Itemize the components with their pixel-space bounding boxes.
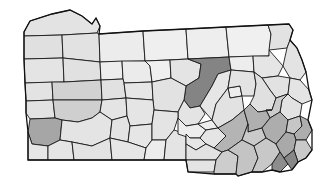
county-warren[interactable] bbox=[62, 33, 100, 62]
county-crawford[interactable] bbox=[24, 35, 63, 59]
county-layer bbox=[24, 10, 312, 176]
map-figure bbox=[0, 0, 324, 189]
county-beaver[interactable] bbox=[26, 100, 55, 119]
county-indiana[interactable] bbox=[126, 98, 154, 126]
county-potter[interactable] bbox=[143, 29, 188, 61]
county-cambria[interactable] bbox=[110, 116, 130, 142]
county-elk[interactable] bbox=[122, 61, 152, 83]
county-tioga[interactable] bbox=[186, 27, 229, 59]
county-mercer[interactable] bbox=[24, 58, 64, 83]
county-clarion[interactable] bbox=[101, 79, 126, 100]
county-mckean[interactable] bbox=[99, 31, 145, 62]
county-adams[interactable] bbox=[186, 160, 216, 172]
county-lawrence[interactable] bbox=[25, 82, 53, 101]
pennsylvania-county-map[interactable] bbox=[0, 0, 324, 189]
county-butler[interactable] bbox=[52, 80, 102, 100]
county-sullivan[interactable] bbox=[229, 56, 254, 72]
county-jefferson[interactable] bbox=[124, 82, 153, 100]
county-forest[interactable] bbox=[100, 61, 123, 80]
county-bradford[interactable] bbox=[226, 25, 271, 57]
county-venango[interactable] bbox=[63, 58, 101, 82]
